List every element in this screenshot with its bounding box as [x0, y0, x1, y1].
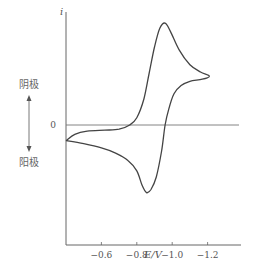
cathode-label: 阴极	[19, 78, 39, 90]
x-tick-label: −1.2	[197, 250, 219, 260]
cyclic-voltammogram-chart: −0.6−0.8−1.0−1.2 i 0 E/V 阴极 阳极	[0, 0, 255, 262]
cathode-anode-arrow-icon	[27, 95, 32, 152]
y-axis-label: i	[60, 6, 63, 17]
y-tick-label-0: 0	[50, 120, 56, 130]
anode-label: 阳极	[19, 156, 39, 168]
x-tick-label: −1.0	[161, 250, 183, 260]
cv-curve-series	[66, 23, 209, 193]
x-tick-label: −0.6	[90, 250, 112, 260]
axes	[66, 12, 241, 245]
x-axis-label: E/V	[143, 249, 164, 260]
x-axis-label-text: E/V	[143, 249, 164, 260]
plot-area	[66, 23, 209, 193]
